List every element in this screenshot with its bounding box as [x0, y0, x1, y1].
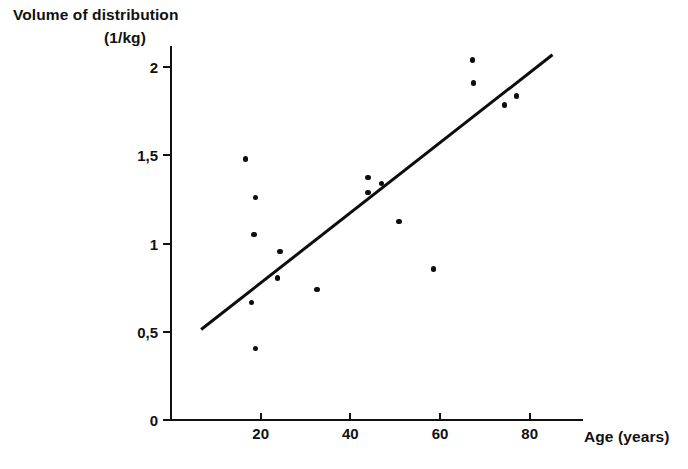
data-point [471, 80, 477, 86]
trend-line [200, 54, 553, 330]
y-axis-tick-label: 0 [106, 413, 158, 428]
y-axis-tick [163, 66, 171, 68]
y-axis-tick-label: 0,5 [106, 325, 158, 340]
data-point [275, 275, 281, 281]
data-point [251, 232, 257, 238]
data-point [470, 57, 476, 63]
x-axis-tick [439, 413, 441, 421]
y-axis-tick-label: 2 [106, 60, 158, 75]
x-axis-tick-label: 80 [510, 426, 550, 441]
data-point [253, 346, 259, 352]
y-axis-tick-label: 1 [106, 237, 158, 252]
y-axis-tick [163, 243, 171, 245]
x-axis-tick-label: 60 [420, 426, 460, 441]
y-axis-tick-label: 1,5 [106, 148, 158, 163]
data-point [514, 93, 520, 99]
plot-area: 00,511,5220406080 [0, 0, 688, 469]
data-point [502, 102, 508, 108]
y-axis-tick [163, 331, 171, 333]
y-axis-tick [163, 154, 171, 156]
data-point [365, 175, 371, 181]
data-point [277, 249, 283, 255]
x-axis-tick-label: 40 [330, 426, 370, 441]
x-axis-tick [529, 413, 531, 421]
x-axis-tick [349, 413, 351, 421]
chart-screenshot: Volume of distribution (1/kg) Age (years… [0, 0, 688, 469]
x-axis-tick [260, 413, 262, 421]
data-point [249, 300, 255, 306]
data-point [314, 287, 320, 293]
y-axis-tick [163, 419, 171, 421]
data-point [365, 190, 371, 196]
data-point [396, 219, 402, 225]
data-point [253, 195, 259, 201]
data-point [431, 266, 437, 272]
data-point [243, 156, 249, 162]
x-axis-tick-label: 20 [241, 426, 281, 441]
